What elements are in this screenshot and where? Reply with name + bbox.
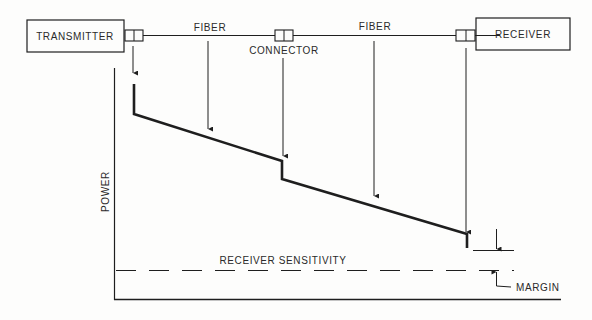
power-curve xyxy=(134,84,467,248)
mid-connector-icon xyxy=(275,30,293,41)
receiver-sensitivity-label: RECEIVER SENSITIVITY xyxy=(219,255,346,266)
power-budget-diagram: TRANSMITTER RECEIVER FIBER FIBER CONNECT… xyxy=(0,0,592,320)
transmitter-label: TRANSMITTER xyxy=(36,31,114,42)
receiver-connector-icon xyxy=(456,30,475,41)
connector-label: CONNECTOR xyxy=(249,45,319,56)
fiber-2-label: FIBER xyxy=(359,21,391,32)
y-axis-label: POWER xyxy=(100,171,111,212)
receiver-block: RECEIVER xyxy=(476,18,570,50)
margin-indicator xyxy=(473,229,514,287)
transmitter-block: TRANSMITTER xyxy=(27,20,124,52)
fiber-1-label: FIBER xyxy=(194,22,226,33)
transmitter-connector-icon xyxy=(125,30,143,41)
receiver-label: RECEIVER xyxy=(495,29,551,40)
margin-label: MARGIN xyxy=(516,282,560,293)
